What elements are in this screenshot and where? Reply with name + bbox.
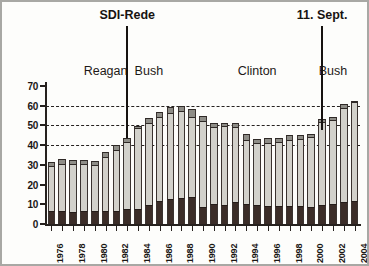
bar: [156, 112, 164, 224]
bar-segment: [134, 209, 142, 224]
x-axis-tick-label: 1984: [142, 244, 152, 263]
bar-segment: [113, 145, 121, 152]
x-axis-tick: [160, 226, 161, 231]
bar: [134, 126, 142, 224]
chart-figure: 010203040506070 197619781980198219841986…: [0, 0, 369, 266]
x-axis-tick: [246, 226, 247, 231]
bar-segment: [307, 138, 315, 207]
bar-segment: [123, 143, 131, 209]
y-axis-tick-label: 0: [4, 219, 38, 230]
bar-segment: [297, 206, 305, 224]
era-label: Reagan: [84, 64, 128, 78]
y-axis-tick-label: 50: [4, 120, 38, 131]
bar-segment: [297, 140, 305, 206]
bar-segment: [48, 211, 56, 224]
bar-segment: [264, 144, 272, 206]
bar-segment: [145, 124, 153, 205]
bar: [102, 152, 110, 224]
x-axis-tick: [311, 226, 312, 231]
bar-segment: [286, 141, 294, 206]
bar-segment: [210, 128, 218, 204]
x-axis-tick: [192, 226, 193, 231]
bar: [232, 123, 240, 224]
bar-segment: [167, 199, 175, 224]
x-axis-tick: [225, 226, 226, 231]
event-marker-line: [126, 26, 128, 138]
bar-segment: [243, 134, 251, 141]
bar-segment: [48, 167, 56, 211]
x-axis-tick: [235, 226, 236, 231]
bar: [243, 134, 251, 224]
x-axis-tick: [257, 226, 258, 231]
x-axis-tick: [127, 226, 128, 231]
bar-segment: [243, 204, 251, 224]
bar: [199, 116, 207, 224]
bar-segment: [264, 206, 272, 224]
x-axis-tick: [333, 226, 334, 231]
bar-segment: [167, 107, 175, 114]
x-axis-tick-label: 1976: [55, 244, 65, 263]
bar-segment: [329, 204, 337, 224]
plot-area: [46, 86, 360, 224]
bar-segment: [91, 166, 99, 211]
bar-segment: [318, 205, 326, 224]
x-axis-tick: [62, 226, 63, 231]
y-axis-tick-label: 40: [4, 140, 38, 151]
bar-segment: [221, 127, 229, 205]
bar: [351, 101, 359, 224]
x-axis-tick: [355, 226, 356, 231]
x-axis-tick-label: 1978: [77, 244, 87, 263]
x-axis-tick-label: 1994: [250, 244, 260, 263]
bar-segment: [188, 118, 196, 197]
bar-segment: [286, 206, 294, 224]
bar-segment: [113, 151, 121, 210]
x-axis-tick-label: 1988: [185, 244, 195, 263]
bar-segment: [69, 212, 77, 224]
bar-segment: [253, 144, 261, 205]
x-axis-tick-label: 2002: [337, 244, 347, 263]
bar-segment: [69, 165, 77, 212]
bar: [167, 107, 175, 224]
y-axis-tick-label: 20: [4, 179, 38, 190]
bar-segment: [199, 122, 207, 207]
bar: [123, 138, 131, 224]
bar-segment: [351, 103, 359, 202]
x-axis-tick-label: 1980: [99, 244, 109, 263]
bar-segment: [210, 204, 218, 224]
bar-segment: [232, 128, 240, 202]
bar-segment: [102, 158, 110, 211]
x-axis-tick: [181, 226, 182, 231]
x-axis-tick: [214, 226, 215, 231]
x-axis-tick: [116, 226, 117, 231]
x-axis-tick-label: 2000: [315, 244, 325, 263]
bar-segment: [91, 211, 99, 224]
bar-segment: [275, 143, 283, 206]
y-axis-tick-label: 70: [4, 81, 38, 92]
bar-segment: [199, 207, 207, 224]
y-axis-tick-label: 60: [4, 100, 38, 111]
bar-segment: [167, 114, 175, 200]
bar: [113, 145, 121, 224]
y-axis-tick-label: 30: [4, 159, 38, 170]
x-axis-tick: [84, 226, 85, 231]
x-axis-tick: [73, 226, 74, 231]
event-marker-label: SDI-Rede: [99, 8, 155, 22]
bar-segment: [340, 109, 348, 203]
x-axis-tick-label: 1996: [272, 244, 282, 263]
x-axis-tick-label: 1986: [164, 244, 174, 263]
bar-segment: [351, 201, 359, 224]
event-marker-label: 11. Sept.: [297, 8, 348, 22]
x-axis-tick: [171, 226, 172, 231]
bar-segment: [253, 205, 261, 224]
bar-segment: [232, 202, 240, 224]
bar-segment: [178, 198, 186, 224]
x-axis-tick: [290, 226, 291, 231]
bar-segment: [58, 165, 66, 211]
bar-segment: [275, 206, 283, 224]
bar-segment: [156, 118, 164, 202]
bar-segment: [80, 211, 88, 224]
y-axis-tick-label: 10: [4, 199, 38, 210]
bar-segment: [123, 209, 131, 224]
bar: [329, 117, 337, 224]
era-label: Clinton: [238, 64, 277, 78]
